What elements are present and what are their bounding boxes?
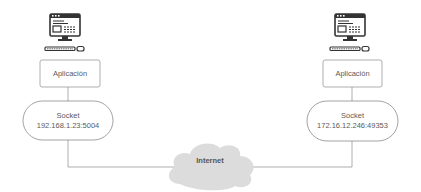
left-application-box: Aplicación	[40, 60, 100, 87]
left-computer-icon	[45, 14, 84, 51]
right-socket-title: Socket	[341, 111, 365, 120]
left-socket-to-internet-line	[68, 140, 180, 167]
right-socket-node: Socket 172.16.12.246:49353	[307, 101, 398, 141]
network-diagram: Aplicación Socket 192.168.1.23:5004 Apli…	[0, 0, 421, 192]
right-computer-icon	[330, 14, 369, 51]
right-socket-to-internet-line	[250, 141, 352, 167]
right-socket-address: 172.16.12.246:49353	[317, 121, 388, 130]
left-application-label: Aplicación	[53, 69, 87, 78]
left-socket-title: Socket	[57, 111, 81, 120]
right-application-box: Aplicación	[323, 60, 382, 87]
left-socket-node: Socket 192.168.1.23:5004	[23, 101, 113, 140]
left-socket-address: 192.168.1.23:5004	[37, 121, 100, 130]
internet-label: Internet	[196, 156, 224, 165]
internet-cloud-icon: Internet	[169, 143, 254, 190]
right-application-label: Aplicación	[335, 69, 369, 78]
